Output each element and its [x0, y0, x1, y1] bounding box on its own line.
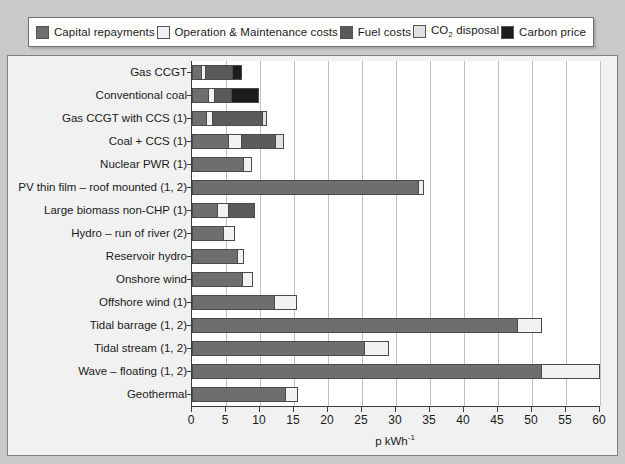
y-axis-label-3: Coal + CCS (1) [109, 130, 187, 153]
bar-segment [517, 319, 542, 332]
x-tick [463, 407, 464, 412]
x-tick-label-0: 0 [188, 413, 195, 427]
bar-13[interactable] [192, 364, 600, 379]
chart-row: Offshore wind (1) [192, 291, 600, 314]
chart-row: Geothermal [192, 383, 600, 406]
chart-row: Tidal stream (1, 2) [192, 337, 600, 360]
bar-segment [205, 66, 232, 79]
x-tick-label-50: 50 [524, 413, 537, 427]
x-tick-label-25: 25 [354, 413, 367, 427]
y-axis-label-4: Nuclear PWR (1) [100, 153, 187, 176]
chart-legend: Capital repaymentsOperation & Maintenanc… [28, 17, 594, 47]
legend-label: Operation & Maintenance costs [175, 26, 338, 38]
legend-label: Carbon price [519, 26, 586, 38]
x-tick-label-30: 30 [388, 413, 401, 427]
y-axis-label-11: Tidal barrage (1, 2) [90, 314, 187, 337]
y-axis-label-10: Offshore wind (1) [99, 291, 187, 314]
bar-segment [237, 250, 242, 263]
x-tick-label-45: 45 [490, 413, 503, 427]
x-tick [259, 407, 260, 412]
x-tick-label-10: 10 [252, 413, 265, 427]
bar-segment [232, 66, 241, 79]
chart-row: PV thin film – roof mounted (1, 2) [192, 176, 600, 199]
x-tick-label-55: 55 [558, 413, 571, 427]
x-tick [361, 407, 362, 412]
chart-row: Large biomass non-CHP (1) [192, 199, 600, 222]
chart-row: Conventional coal [192, 84, 600, 107]
x-tick [599, 407, 600, 412]
bar-8[interactable] [192, 249, 244, 264]
x-tick-label-35: 35 [422, 413, 435, 427]
bar-11[interactable] [192, 318, 542, 333]
chart-plot-frame: Gas CCGTConventional coalGas CCGT with C… [7, 55, 618, 456]
bar-segment [243, 158, 251, 171]
x-tick-label-15: 15 [286, 413, 299, 427]
y-axis-label-14: Geothermal [127, 383, 187, 406]
bar-segment [228, 135, 241, 148]
bar-segment [193, 273, 242, 286]
bar-segment [193, 319, 517, 332]
bar-4[interactable] [192, 157, 252, 172]
bar-segment [285, 388, 297, 401]
legend-item-om[interactable]: Operation & Maintenance costs [157, 26, 338, 39]
bar-segment [223, 227, 233, 240]
bar-segment [193, 158, 243, 171]
bar-segment [193, 66, 201, 79]
bar-1[interactable] [192, 88, 259, 103]
bar-segment [418, 181, 423, 194]
x-axis: 051015202530354045505560p kWh-1 [191, 407, 599, 452]
legend-swatch-co2-icon [413, 25, 426, 38]
legend-item-co2[interactable]: CO2 disposal [413, 24, 499, 39]
legend-item-fuel[interactable]: Fuel costs [340, 26, 411, 39]
bar-9[interactable] [192, 272, 253, 287]
bar-2[interactable] [192, 111, 267, 126]
bar-segment [193, 365, 541, 378]
x-tick-label-20: 20 [320, 413, 333, 427]
bar-segment [274, 296, 297, 309]
bar-segment [193, 112, 206, 125]
y-axis-label-8: Reservoir hydro [106, 245, 187, 268]
bar-segment [275, 135, 282, 148]
chart-row: Coal + CCS (1) [192, 130, 600, 153]
bar-segment [193, 135, 228, 148]
x-axis-title-exponent: -1 [408, 433, 415, 442]
bar-segment [193, 204, 217, 217]
chart-plot-area: Gas CCGTConventional coalGas CCGT with C… [191, 61, 600, 407]
x-axis-title: p kWh-1 [191, 433, 599, 447]
x-tick [395, 407, 396, 412]
bar-segment [193, 250, 237, 263]
x-axis-title-text: p kWh [375, 435, 408, 447]
legend-label: Fuel costs [358, 26, 411, 38]
bar-segment [193, 227, 223, 240]
legend-label: CO2 disposal [431, 24, 499, 39]
bar-segment [217, 204, 228, 217]
legend-item-carbon[interactable]: Carbon price [501, 26, 586, 39]
x-tick-label-5: 5 [222, 413, 229, 427]
bar-segment [231, 89, 258, 102]
bar-7[interactable] [192, 226, 235, 241]
bar-12[interactable] [192, 341, 389, 356]
bar-segment [228, 204, 254, 217]
bar-segment [212, 112, 262, 125]
legend-swatch-carbon-icon [501, 26, 514, 39]
y-axis-label-9: Onshore wind [116, 268, 187, 291]
bar-segment [541, 365, 599, 378]
bar-6[interactable] [192, 203, 255, 218]
legend-item-capital[interactable]: Capital repayments [36, 26, 155, 39]
y-axis-label-6: Large biomass non-CHP (1) [44, 199, 187, 222]
chart-row: Gas CCGT [192, 61, 600, 84]
chart-row: Hydro – run of river (2) [192, 222, 600, 245]
bar-5[interactable] [192, 180, 424, 195]
y-axis-label-7: Hydro – run of river (2) [71, 222, 187, 245]
y-axis-label-2: Gas CCGT with CCS (1) [62, 107, 187, 130]
x-tick [497, 407, 498, 412]
bar-0[interactable] [192, 65, 242, 80]
y-axis-label-0: Gas CCGT [130, 61, 187, 84]
x-tick [531, 407, 532, 412]
bar-3[interactable] [192, 134, 284, 149]
chart-row: Gas CCGT with CCS (1) [192, 107, 600, 130]
x-tick [327, 407, 328, 412]
bar-14[interactable] [192, 387, 298, 402]
bar-10[interactable] [192, 295, 297, 310]
bar-segment [193, 388, 285, 401]
